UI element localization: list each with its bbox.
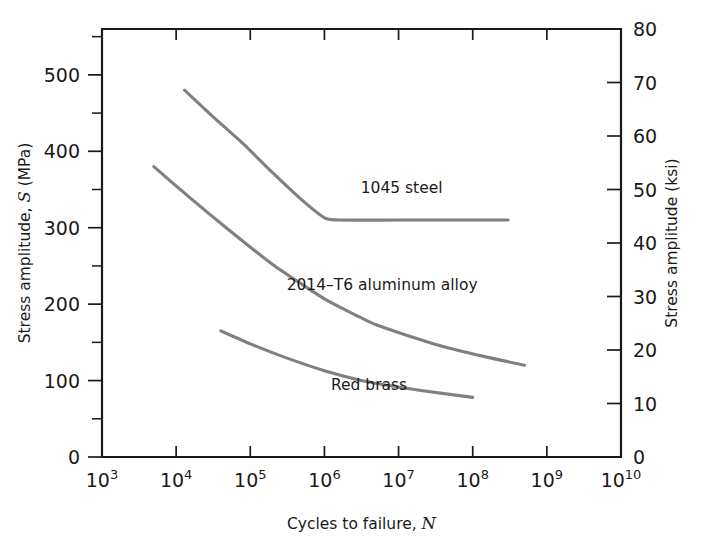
y-right-tick-label-60: 60 (633, 125, 657, 147)
y-right-tick-label-80: 80 (633, 18, 657, 40)
x-tick-label-3: 103 (86, 467, 118, 491)
chart-canvas: 1031041051061071081091010010020030040050… (0, 0, 701, 538)
chart-text-labels: 1031041051061071081091010010020030040050… (15, 18, 681, 533)
y-right-tick-label-50: 50 (633, 179, 657, 201)
y-right-tick-label-0: 0 (633, 446, 645, 468)
x-tick-label-6: 106 (308, 467, 340, 491)
series-label-2014-t6-aluminum-alloy: 2014–T6 aluminum alloy (287, 276, 478, 294)
series-label-red-brass: Red brass (331, 376, 407, 394)
x-tick-label-4: 104 (160, 467, 192, 491)
y-tick-label-500: 500 (44, 64, 80, 86)
y-axis-title-left: Stress amplitude, S (MPa) (15, 143, 34, 344)
y-tick-label-200: 200 (44, 293, 80, 315)
y-right-tick-label-30: 30 (633, 286, 657, 308)
y-axis-title-right: Stress amplitude (ksi) (663, 158, 681, 327)
y-tick-label-0: 0 (68, 446, 80, 468)
y-right-tick-label-20: 20 (633, 339, 657, 361)
y-right-tick-label-40: 40 (633, 232, 657, 254)
y-right-tick-label-10: 10 (633, 393, 657, 415)
x-tick-label-10: 1010 (601, 467, 642, 491)
x-tick-label-8: 108 (456, 467, 488, 491)
curve-1045-steel (185, 90, 509, 220)
x-tick-label-9: 109 (531, 467, 563, 491)
curve-2014-t6-aluminum-alloy (154, 167, 525, 366)
curves-group (154, 90, 525, 397)
y-tick-label-400: 400 (44, 140, 80, 162)
series-label-1045-steel: 1045 steel (361, 179, 443, 197)
fatigue-sn-curve-figure: 1031041051061071081091010010020030040050… (0, 0, 701, 538)
x-axis-title: Cycles to failure, N (287, 514, 437, 533)
x-tick-label-7: 107 (382, 467, 414, 491)
x-tick-label-5: 105 (234, 467, 266, 491)
y-tick-label-300: 300 (44, 217, 80, 239)
y-right-tick-label-70: 70 (633, 72, 657, 94)
y-tick-label-100: 100 (44, 370, 80, 392)
